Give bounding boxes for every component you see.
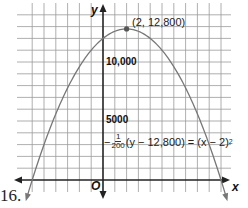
grid-lines <box>17 3 231 192</box>
equation-body: (y − 12,800) = (x − 2) <box>126 136 229 148</box>
equation-exponent: 2 <box>229 138 233 145</box>
fraction-denominator: 200 <box>111 142 124 150</box>
equation-label: − 1 200 (y − 12,800) = (x − 2)2 <box>104 133 233 150</box>
equation-minus: − <box>104 136 110 148</box>
vertex-point <box>124 26 129 31</box>
equation-fraction: 1 200 <box>111 133 124 150</box>
vertex-label: (2, 12,800) <box>132 16 185 28</box>
y-tick-5000: 5000 <box>106 114 128 125</box>
origin-label: O <box>91 179 100 193</box>
y-tick-10000: 10,000 <box>106 56 137 67</box>
problem-number: 16. <box>0 186 21 206</box>
x-axis-label: x <box>232 180 239 194</box>
parabola-graph <box>0 0 248 208</box>
y-axis-label: y <box>91 3 98 17</box>
curve-end-arrows <box>25 193 228 202</box>
